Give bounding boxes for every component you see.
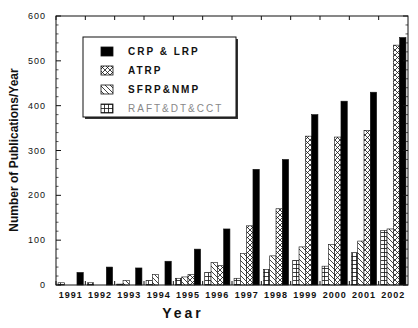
- bar: [123, 281, 129, 285]
- bar: [106, 267, 112, 285]
- legend-swatch: [101, 47, 113, 56]
- x-tick-label: 1995: [176, 290, 200, 300]
- y-tick-label: 200: [28, 190, 46, 200]
- bar: [312, 115, 318, 285]
- bar: [270, 256, 276, 285]
- publications-bar-chart: 0100200300400500600199119921993199419951…: [0, 0, 418, 328]
- legend-label: CRP & LRP: [128, 46, 200, 57]
- x-tick-label: 1991: [59, 290, 83, 300]
- bar: [182, 277, 188, 285]
- bar: [253, 169, 259, 285]
- bar: [217, 266, 223, 285]
- bar: [299, 247, 305, 285]
- x-tick-label: 1996: [205, 290, 229, 300]
- x-axis-label: Year: [162, 305, 204, 321]
- bar: [247, 226, 253, 285]
- bar: [387, 229, 393, 285]
- bar: [370, 92, 376, 285]
- bar: [205, 272, 211, 285]
- bar: [381, 230, 387, 285]
- legend-label: SFRP&NMP: [128, 84, 200, 95]
- legend-label: ATRP: [128, 65, 162, 76]
- legend-swatch: [101, 104, 113, 113]
- bar: [276, 209, 282, 285]
- y-tick-label: 600: [28, 11, 46, 21]
- bar: [224, 229, 230, 285]
- legend-label: RAFT&DT&CCT: [128, 103, 223, 114]
- y-tick-label: 300: [28, 146, 46, 156]
- bar: [211, 263, 217, 285]
- bar: [175, 278, 181, 285]
- y-tick-label: 400: [28, 101, 46, 111]
- bar: [341, 101, 347, 285]
- bar: [305, 136, 311, 285]
- legend-swatch: [101, 85, 113, 94]
- x-tick-label: 1994: [147, 290, 171, 300]
- x-tick-label: 1992: [88, 290, 112, 300]
- legend-swatch: [101, 66, 113, 75]
- bar: [400, 38, 406, 285]
- bar: [263, 269, 269, 285]
- legend: CRP & LRPATRPSFRP&NMPRAFT&DT&CCT: [83, 37, 238, 119]
- y-axis-label: Number of Publications/Year: [7, 68, 21, 232]
- x-tick-label: 1999: [293, 290, 317, 300]
- bar: [194, 249, 200, 285]
- bar: [165, 261, 171, 285]
- bar: [293, 260, 299, 285]
- y-tick-label: 100: [28, 235, 46, 245]
- bar: [240, 254, 246, 285]
- y-tick-label: 500: [28, 56, 46, 66]
- bar: [393, 45, 399, 285]
- x-tick-label: 2001: [352, 290, 376, 300]
- x-tick-label: 1997: [235, 290, 259, 300]
- x-tick-label: 2002: [381, 290, 405, 300]
- bar: [364, 130, 370, 285]
- bar: [234, 278, 240, 285]
- x-tick-label: 1993: [117, 290, 141, 300]
- bar: [322, 266, 328, 285]
- bar: [358, 241, 364, 285]
- bar: [188, 275, 194, 285]
- bar: [351, 253, 357, 285]
- bar: [77, 272, 83, 285]
- bar: [136, 268, 142, 285]
- x-tick-label: 2000: [323, 290, 347, 300]
- bar: [335, 137, 341, 285]
- bar: [282, 159, 288, 285]
- bar: [146, 281, 152, 285]
- x-tick-label: 1998: [264, 290, 288, 300]
- y-tick-label: 0: [40, 280, 46, 290]
- bar: [328, 245, 334, 285]
- bar: [152, 275, 158, 285]
